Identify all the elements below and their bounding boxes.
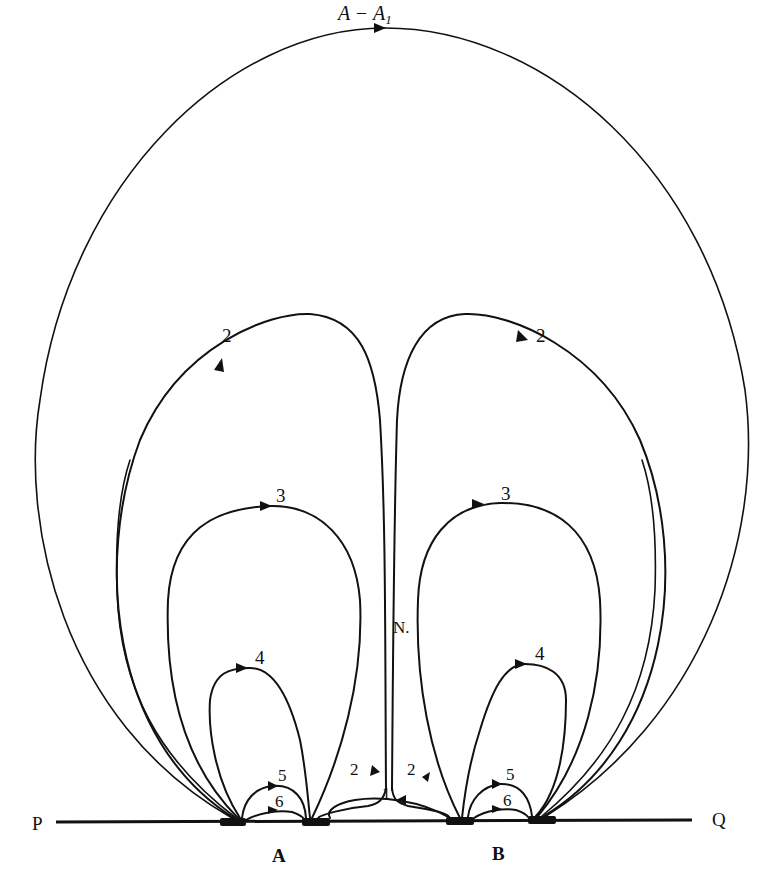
label-branch2-left: 2 xyxy=(350,760,359,779)
label-electrode-a: A xyxy=(272,845,286,866)
arrow-loop4-left xyxy=(236,663,248,673)
arrow-loop3-left xyxy=(260,501,272,511)
label-loop6-right: 6 xyxy=(503,791,512,810)
baseline-line xyxy=(56,820,692,822)
label-loop3-left: 3 xyxy=(276,485,286,506)
label-loop5-left: 5 xyxy=(278,766,287,785)
label-loop4-right: 4 xyxy=(535,643,545,664)
label-branch2-right: 2 xyxy=(407,760,416,779)
pad-a-left xyxy=(220,818,246,826)
loop6-left xyxy=(246,811,304,820)
arrow-outer xyxy=(374,23,386,33)
arrow-branch2-left xyxy=(370,765,380,776)
arrow-loop2-left xyxy=(214,358,224,372)
loop4-left xyxy=(210,668,310,818)
field-line-diagram: A − A1 2 2 3 3 4 4 5 5 6 6 1 2 2 N. A B … xyxy=(0,0,771,888)
label-electrode-b: B xyxy=(492,843,505,864)
label-neutral-point: N. xyxy=(393,618,410,637)
loop2-left xyxy=(117,314,386,818)
label-p: P xyxy=(32,813,43,834)
loop6-right xyxy=(474,809,528,818)
branch2-left xyxy=(318,788,386,818)
arrow-loop5-left xyxy=(268,781,278,791)
arrow-loop6-right xyxy=(492,805,502,813)
label-loop4-left: 4 xyxy=(255,647,265,668)
label-loop3-right: 3 xyxy=(501,483,511,504)
arrow-loop3-right xyxy=(472,499,484,509)
label-outer: A − A1 xyxy=(336,2,392,27)
label-q: Q xyxy=(712,809,726,830)
loop2-right xyxy=(392,314,665,816)
field-line-right-a xyxy=(542,460,655,816)
baseline-pq xyxy=(56,820,692,822)
arrow-loop5-right xyxy=(492,779,502,789)
branch2-right xyxy=(392,788,450,818)
pad-a-right xyxy=(302,818,330,826)
label-loop2-right: 2 xyxy=(536,325,546,346)
label-loop6-left: 6 xyxy=(275,792,284,811)
label-loop2-left: 2 xyxy=(222,325,232,346)
pad-b-right xyxy=(528,816,556,824)
label-line1: 1 xyxy=(382,784,391,803)
label-loop5-right: 5 xyxy=(506,765,515,784)
arrow-loop4-right xyxy=(515,659,527,669)
arrow-loop2-right xyxy=(516,330,528,342)
arrow-branch2-right xyxy=(422,772,430,782)
